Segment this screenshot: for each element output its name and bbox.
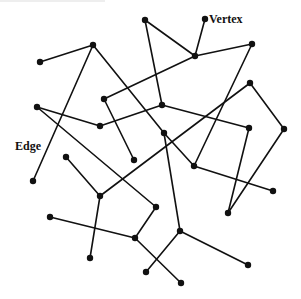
- graph-vertex: [97, 123, 103, 129]
- graph-edge: [180, 231, 248, 265]
- graph-vertex: [225, 210, 231, 216]
- graph-vertex: [247, 80, 253, 86]
- graph-vertex: [87, 255, 93, 261]
- graph-edge: [195, 19, 205, 56]
- graph-edge: [194, 166, 273, 191]
- edges-layer: [33, 19, 284, 283]
- graph-edge: [33, 45, 93, 181]
- graph-edge: [37, 107, 100, 126]
- graph-edge: [195, 44, 252, 56]
- vertex-label: Vertex: [209, 12, 243, 26]
- graph-vertex: [178, 280, 184, 286]
- graph-vertex: [245, 262, 251, 268]
- graph-edge: [135, 238, 181, 283]
- graph-edge: [228, 129, 284, 213]
- graph-edge: [135, 207, 156, 238]
- graph-edge: [145, 20, 195, 56]
- graph-vertex: [131, 157, 137, 163]
- graph-vertex: [161, 130, 167, 136]
- graph-vertex: [30, 178, 36, 184]
- graph-vertex: [34, 104, 40, 110]
- graph-vertex: [159, 102, 165, 108]
- graph-edge: [228, 128, 249, 213]
- graph-vertex: [177, 228, 183, 234]
- graph-vertex: [192, 53, 198, 59]
- graph-vertex: [143, 269, 149, 275]
- graph-edge: [194, 44, 252, 166]
- graph-vertex: [90, 42, 96, 48]
- graph-vertex: [97, 193, 103, 199]
- graph-vertex: [47, 214, 53, 220]
- graph-diagram: Vertex Edge: [0, 0, 301, 299]
- graph-vertex: [63, 154, 69, 160]
- edge-label: Edge: [15, 139, 42, 153]
- graph-edge: [66, 157, 100, 196]
- graph-vertex: [249, 41, 255, 47]
- graph-edge: [250, 83, 284, 129]
- graph-vertex: [37, 59, 43, 65]
- graph-edge: [104, 99, 134, 160]
- graph-vertex: [132, 235, 138, 241]
- graph-edge: [145, 20, 162, 105]
- graph-vertex: [142, 17, 148, 23]
- graph-vertex: [153, 204, 159, 210]
- graph-vertex: [202, 16, 208, 22]
- graph-vertex: [246, 125, 252, 131]
- graph-edge: [50, 217, 135, 238]
- graph-vertex: [281, 126, 287, 132]
- graph-vertex: [270, 188, 276, 194]
- graph-edge: [40, 45, 93, 62]
- graph-vertex: [191, 163, 197, 169]
- graph-edge: [104, 56, 195, 99]
- graph-edge: [100, 83, 250, 196]
- graph-vertex: [101, 96, 107, 102]
